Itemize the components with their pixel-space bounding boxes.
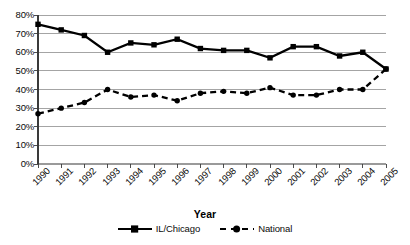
series-layer — [38, 15, 386, 164]
data-point[interactable] — [35, 22, 40, 27]
data-point[interactable] — [267, 85, 272, 90]
plot-area — [38, 15, 386, 164]
y-tick-label: 80% — [2, 10, 34, 20]
y-tick-label: 20% — [2, 122, 34, 132]
data-point[interactable] — [82, 33, 87, 38]
data-point[interactable] — [151, 42, 156, 47]
data-point[interactable] — [175, 98, 180, 103]
y-tick-label: 70% — [2, 29, 34, 39]
data-point[interactable] — [314, 44, 319, 49]
data-point[interactable] — [314, 92, 319, 97]
data-point[interactable] — [291, 92, 296, 97]
legend-swatch-dashed-circle-icon — [220, 224, 254, 234]
data-point[interactable] — [291, 44, 296, 49]
legend-label-il-chicago: IL/Chicago — [156, 224, 200, 234]
data-point[interactable] — [337, 87, 342, 92]
legend-label-national: National — [258, 224, 292, 234]
series-line-national — [38, 69, 386, 114]
data-point[interactable] — [360, 87, 365, 92]
data-point[interactable] — [360, 50, 365, 55]
y-tick-label: 10% — [2, 140, 34, 150]
data-point[interactable] — [35, 111, 40, 116]
y-tick-label: 40% — [2, 85, 34, 95]
legend-item-il-chicago[interactable]: IL/Chicago — [118, 224, 200, 234]
data-point[interactable] — [59, 105, 64, 110]
data-point[interactable] — [337, 53, 342, 58]
y-tick-label: 30% — [2, 103, 34, 113]
data-point[interactable] — [175, 37, 180, 42]
data-point[interactable] — [105, 50, 110, 55]
chart-legend: IL/Chicago National — [0, 224, 410, 234]
data-point[interactable] — [198, 91, 203, 96]
data-point[interactable] — [383, 66, 388, 71]
y-axis: 80%70%60%50%40%30%20%10%0% — [0, 15, 34, 164]
data-point[interactable] — [221, 48, 226, 53]
data-point[interactable] — [82, 100, 87, 105]
data-point[interactable] — [151, 92, 156, 97]
data-point[interactable] — [105, 87, 110, 92]
y-tick-label: 0% — [2, 159, 34, 169]
data-point[interactable] — [128, 40, 133, 45]
legend-item-national[interactable]: National — [220, 224, 292, 234]
series-line-il-chicago — [38, 24, 386, 69]
data-point[interactable] — [244, 91, 249, 96]
y-tick-label: 60% — [2, 47, 34, 57]
data-point[interactable] — [221, 89, 226, 94]
legend-swatch-solid-square-icon — [118, 224, 152, 234]
x-axis-title: Year — [0, 208, 410, 220]
data-point[interactable] — [128, 94, 133, 99]
x-axis: 1990199119921993199419951996199719981999… — [38, 166, 386, 210]
data-point[interactable] — [59, 27, 64, 32]
data-point[interactable] — [244, 48, 249, 53]
y-tick-label: 50% — [2, 66, 34, 76]
data-point[interactable] — [198, 46, 203, 51]
data-point[interactable] — [267, 55, 272, 60]
line-chart: 80%70%60%50%40%30%20%10%0% 1990199119921… — [0, 0, 410, 245]
